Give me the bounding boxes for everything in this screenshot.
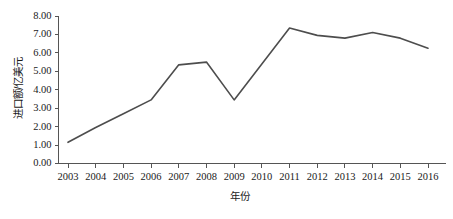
x-axis-tick-label: 2010 (251, 171, 272, 182)
x-axis-tick-label: 2012 (307, 171, 328, 182)
x-axis-tick-label: 2014 (362, 171, 384, 182)
data-series-line (68, 28, 428, 142)
y-axis-tick-label: 6.00 (33, 47, 51, 58)
y-axis-tick-label: 4.00 (33, 84, 51, 95)
line-chart-figure: 0.001.002.003.004.005.006.007.008.00 200… (0, 0, 453, 219)
x-axis-tick-label: 2003 (58, 171, 79, 182)
y-axis-tick-label: 8.00 (33, 10, 51, 21)
y-axis-tick-label: 0.00 (33, 157, 51, 168)
y-axis-tick-labels: 0.001.002.003.004.005.006.007.008.00 (33, 10, 51, 169)
y-axis: 0.001.002.003.004.005.006.007.008.00 (33, 10, 58, 169)
x-axis-tick-label: 2006 (141, 171, 162, 182)
x-axis-tick-label: 2007 (168, 171, 189, 182)
x-axis-tick-label: 2016 (418, 171, 439, 182)
x-axis-tick-label: 2015 (390, 171, 411, 182)
y-axis-tick-label: 2.00 (33, 121, 51, 132)
x-axis-tick-label: 2013 (334, 171, 355, 182)
y-axis-tick-label: 5.00 (33, 65, 51, 76)
y-axis-tick-label: 3.00 (33, 102, 51, 113)
x-axis-tick-labels: 2003200420052006200720082009201020112012… (58, 171, 439, 182)
x-axis-tick-label: 2009 (224, 171, 245, 182)
y-axis-title: 进口额/亿美元 (12, 56, 24, 120)
chart-canvas: 0.001.002.003.004.005.006.007.008.00 200… (0, 0, 453, 219)
x-axis-ticks (68, 164, 428, 168)
x-axis-title: 年份 (230, 190, 251, 202)
y-axis-tick-label: 1.00 (33, 139, 51, 150)
x-axis-tick-label: 2011 (279, 171, 300, 182)
x-axis: 2003200420052006200720082009201020112012… (58, 164, 447, 182)
x-axis-tick-label: 2008 (196, 171, 217, 182)
x-axis-tick-label: 2004 (85, 171, 107, 182)
x-axis-tick-label: 2005 (113, 171, 134, 182)
y-axis-tick-label: 7.00 (33, 28, 51, 39)
